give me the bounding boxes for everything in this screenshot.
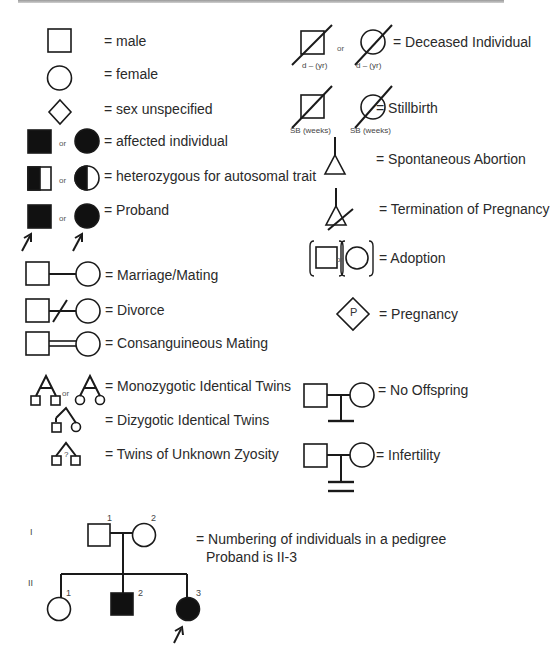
label-sex-unspecified: = sex unspecified <box>104 101 213 117</box>
or-text: or <box>62 389 69 398</box>
diamond-icon <box>49 100 71 124</box>
individual-number: 1 <box>107 513 112 523</box>
or-text: or <box>337 44 344 53</box>
proband-circle-icon <box>75 204 99 228</box>
label-monozygotic: = Monozygotic Identical Twins <box>105 378 291 394</box>
stillbirth-sublabel: SB (weeks) <box>350 126 391 135</box>
pedigree-caption-line1: = Numbering of individuals in a pedigree <box>196 531 446 547</box>
generation-label-II: II <box>28 578 33 588</box>
label-unknown-twins: = Twins of Unknown Zyosity <box>105 446 279 462</box>
label-affected: = affected individual <box>104 133 228 149</box>
label-marriage: = Marriage/Mating <box>105 267 218 283</box>
label-spontaneous-abortion: = Spontaneous Abortion <box>376 151 526 167</box>
label-female: = female <box>104 66 158 82</box>
deceased-sublabel: d – (yr) <box>302 61 327 70</box>
or-text: or <box>336 255 343 264</box>
label-termination: = Termination of Pregnancy <box>379 201 550 217</box>
question-mark: ? <box>64 450 68 459</box>
generation-label-I: I <box>30 527 33 537</box>
pedigree-caption-line2: Proband is II-3 <box>206 549 297 565</box>
or-text: or <box>59 176 66 185</box>
deceased-sublabel: d – (yr) <box>356 61 381 70</box>
female-circle-icon <box>48 66 72 90</box>
label-consanguineous: = Consanguineous Mating <box>105 335 268 351</box>
label-divorce: = Divorce <box>105 302 165 318</box>
individual-number: 2 <box>138 588 143 598</box>
stillbirth-sublabel: SB (weeks) <box>290 126 331 135</box>
label-male: = male <box>104 33 146 49</box>
or-text: or <box>59 214 66 223</box>
affected-circle-icon <box>75 129 99 153</box>
label-pregnancy: = Pregnancy <box>379 306 458 322</box>
label-deceased: = Deceased Individual <box>393 34 531 50</box>
label-proband: = Proband <box>104 202 169 218</box>
individual-number: 1 <box>66 588 71 598</box>
individual-number: 2 <box>151 513 156 523</box>
label-dizygotic: = Dizygotic Identical Twins <box>105 412 269 428</box>
or-text: or <box>59 139 66 148</box>
individual-number: 3 <box>196 588 201 598</box>
pregnancy-p-glyph: P <box>350 308 357 317</box>
proband-square-icon <box>28 205 51 228</box>
label-no-offspring: = No Offspring <box>378 382 468 398</box>
label-stillbirth: = Stillbirth <box>376 100 438 116</box>
male-square-icon <box>48 29 71 52</box>
label-heterozygous: = heterozygous for autosomal trait <box>104 168 316 184</box>
label-adoption: = Adoption <box>379 250 446 266</box>
label-infertility: = Infertility <box>376 447 440 463</box>
affected-square-icon <box>28 130 51 153</box>
